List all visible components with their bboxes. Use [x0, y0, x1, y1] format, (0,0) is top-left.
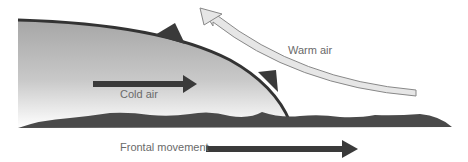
frontal-movement-arrowhead-icon	[342, 140, 358, 158]
warm-air-label: Warm air	[288, 44, 332, 56]
cold-front-diagram	[0, 0, 468, 162]
cold-air-arrow-shaft	[93, 81, 185, 87]
cold-air-label: Cold air	[120, 88, 158, 100]
frontal-movement-label: Frontal movement	[120, 141, 209, 153]
frontal-movement-arrow-shaft	[206, 146, 344, 152]
